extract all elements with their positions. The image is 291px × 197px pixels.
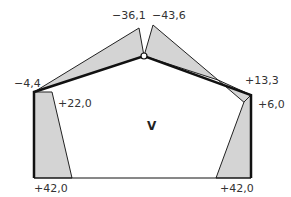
label-apex-right: −43,6 xyxy=(152,9,186,22)
label-right-eave-roof: +13,3 xyxy=(245,74,279,87)
label-left-column-top: +22,0 xyxy=(58,97,92,110)
label-right-base: +42,0 xyxy=(220,182,254,195)
moment-diagram: −4,4 −36,1 −43,6 +13,3 +22,0 +6,0 +42,0 … xyxy=(0,0,291,197)
center-label: V xyxy=(147,119,157,133)
moment-area-left-roof xyxy=(34,28,144,92)
label-right-column-top: +6,0 xyxy=(258,98,285,111)
label-apex-left: −36,1 xyxy=(112,9,146,22)
moment-area-right-column xyxy=(216,95,251,178)
moment-area-right-roof-upper xyxy=(144,25,218,80)
label-left-eave: −4,4 xyxy=(14,77,41,90)
apex-hinge-icon xyxy=(141,53,147,59)
label-left-base: +42,0 xyxy=(34,182,68,195)
